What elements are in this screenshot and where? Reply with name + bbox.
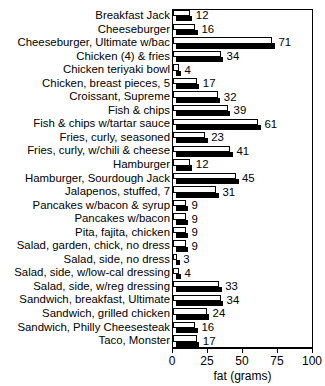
category-label: Croissant, Supreme xyxy=(69,90,170,104)
bar-value-label: 4 xyxy=(185,267,191,280)
bar-value-label: 41 xyxy=(236,145,249,158)
bar-row: Hamburger12 xyxy=(0,158,325,172)
bar-value-label: 9 xyxy=(192,226,198,239)
category-label: Jalapenos, stuffed, 7 xyxy=(65,185,170,199)
bar-value-label: 71 xyxy=(278,36,291,49)
category-label: Salad, side, w/low-cal dressing xyxy=(14,266,170,280)
category-label: Salad, side, no dress xyxy=(64,253,170,267)
bar-rows-container: Breakfast Jack12Cheeseburger16Cheeseburg… xyxy=(0,9,325,348)
category-label: Sandwich, breakfast, Ultimate xyxy=(19,293,170,307)
category-label: Salad, side, w/reg dressing xyxy=(33,280,170,294)
bar-front-face xyxy=(176,84,200,89)
bar-value-label: 16 xyxy=(201,23,214,36)
bar-front-face xyxy=(176,16,193,21)
bar-value-label: 33 xyxy=(225,280,238,293)
bar-row: Croissant, Supreme32 xyxy=(0,90,325,104)
bar-row: Salad, side, w/low-cal dressing4 xyxy=(0,266,325,280)
x-tick-mark xyxy=(207,348,208,353)
x-tick-mark xyxy=(312,348,313,353)
chart-title-fragment xyxy=(132,0,322,3)
bar-value-label: 17 xyxy=(203,77,216,90)
bar-front-face xyxy=(176,233,189,238)
bar-value-label: 12 xyxy=(196,9,209,22)
x-tick-label: 0 xyxy=(169,354,176,368)
x-tick-mark xyxy=(277,348,278,353)
x-tick-label: 100 xyxy=(302,354,322,368)
bar-value-label: 23 xyxy=(211,131,224,144)
bar-value-label: 4 xyxy=(185,64,191,77)
bar-row: Sandwich, grilled chicken24 xyxy=(0,307,325,321)
bar-row: Fish & chips39 xyxy=(0,104,325,118)
bar-row: Sandwich, Philly Cheesesteak16 xyxy=(0,321,325,335)
bar-front-face xyxy=(176,30,198,35)
bar-value-label: 45 xyxy=(242,172,255,185)
bar-value-label: 32 xyxy=(224,91,237,104)
bar-front-face xyxy=(176,287,222,292)
bar-front-face xyxy=(176,314,210,319)
bar-front-face xyxy=(176,57,224,62)
fat-grams-bar-chart: Breakfast Jack12Cheeseburger16Cheeseburg… xyxy=(0,0,325,386)
category-label: Fish & chips xyxy=(108,104,170,118)
bar-value-label: 34 xyxy=(227,50,240,63)
x-axis-title: fat (grams) xyxy=(172,369,313,383)
bar-row: Pita, fajita, chicken9 xyxy=(0,226,325,240)
bar-value-label: 34 xyxy=(227,294,240,307)
category-label: Fries, curly, w/chili & cheese xyxy=(27,144,170,158)
category-label: Chicken teriyaki bowl xyxy=(63,63,170,77)
bar-row: Pancakes w/bacon & syrup9 xyxy=(0,199,325,213)
bar-row: Chicken teriyaki bowl4 xyxy=(0,63,325,77)
bar-front-face xyxy=(176,342,200,347)
category-label: Fries, curly, seasoned xyxy=(59,131,170,145)
category-label: Cheeseburger, Ultimate w/bac xyxy=(17,36,170,50)
category-label: Sandwich, grilled chicken xyxy=(42,307,170,321)
bar-row: Pancakes w/bacon9 xyxy=(0,212,325,226)
bar-row: Taco, Monster17 xyxy=(0,334,325,348)
bar-value-label: 9 xyxy=(192,240,198,253)
bar-front-face xyxy=(176,43,275,48)
bar-row: Fish & chips w/tartar sauce61 xyxy=(0,117,325,131)
bar-row: Cheeseburger, Ultimate w/bac71 xyxy=(0,36,325,50)
bar-front-face xyxy=(176,165,193,170)
bar-front-face xyxy=(176,179,239,184)
category-label: Fish & chips w/tartar sauce xyxy=(33,117,170,131)
bar-value-label: 24 xyxy=(213,307,226,320)
bar-front-face xyxy=(176,111,231,116)
x-tick-label: 25 xyxy=(200,354,213,368)
bar-front-face xyxy=(176,247,189,252)
bar-row: Salad, garden, chick, no dress9 xyxy=(0,239,325,253)
category-label: Taco, Monster xyxy=(98,334,170,348)
bar-row: Salad, side, w/reg dressing33 xyxy=(0,280,325,294)
category-label: Hamburger, Sourdough Jack xyxy=(25,172,170,186)
x-tick-label: 50 xyxy=(235,354,248,368)
bar-row: Salad, side, no dress3 xyxy=(0,253,325,267)
bar-front-face xyxy=(176,125,261,130)
category-label: Pita, fajita, chicken xyxy=(75,226,170,240)
bar-value-label: 31 xyxy=(222,186,235,199)
bar-value-label: 17 xyxy=(203,335,216,348)
bar-row: Cheeseburger16 xyxy=(0,23,325,37)
category-label: Sandwich, Philly Cheesesteak xyxy=(17,321,170,335)
bar-front-face xyxy=(176,274,182,279)
bar-row: Fries, curly, w/chili & cheese41 xyxy=(0,144,325,158)
bar-value-label: 39 xyxy=(234,104,247,117)
bar-front-face xyxy=(176,301,224,306)
bar-front-face xyxy=(176,206,189,211)
bar-value-label: 61 xyxy=(264,118,277,131)
x-tick-mark xyxy=(172,348,173,353)
bar-front-face xyxy=(176,260,180,265)
bar-front-face xyxy=(176,152,233,157)
x-tick-label: 75 xyxy=(270,354,283,368)
bar-front-face xyxy=(176,138,208,143)
bar-front-face xyxy=(176,220,189,225)
bar-row: Hamburger, Sourdough Jack45 xyxy=(0,172,325,186)
bar-row: Chicken (4) & fries34 xyxy=(0,50,325,64)
category-label: Cheeseburger xyxy=(98,23,170,37)
bar-value-label: 3 xyxy=(183,253,189,266)
bar-row: Sandwich, breakfast, Ultimate34 xyxy=(0,293,325,307)
bar-row: Jalapenos, stuffed, 731 xyxy=(0,185,325,199)
category-label: Chicken, breast pieces, 5 xyxy=(42,77,170,91)
bar-value-label: 9 xyxy=(192,199,198,212)
bar-value-label: 16 xyxy=(201,321,214,334)
bar-front-face xyxy=(176,328,198,333)
bar-front-face xyxy=(176,98,221,103)
